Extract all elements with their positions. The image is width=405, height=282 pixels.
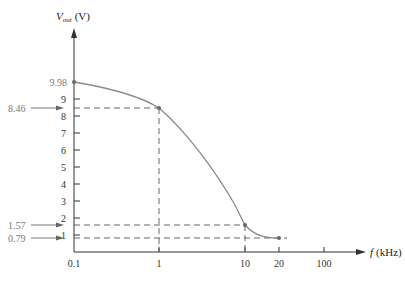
svg-text:5: 5 [61,162,66,173]
svg-text:0.1: 0.1 [68,258,81,269]
svg-text:8: 8 [61,111,66,122]
x-ticks: 0.1 1 10 20 100 [68,247,332,269]
svg-text:3: 3 [61,196,66,207]
svg-text:10: 10 [240,258,250,269]
x-axis-arrow-icon [356,249,366,255]
annotation-8-46: 8.46 [8,103,64,114]
svg-text:8.46: 8.46 [8,103,26,114]
svg-text:1: 1 [61,230,66,241]
svg-text:6: 6 [61,145,66,156]
y-axis-arrow-icon [71,28,77,38]
frequency-response-chart: Vout(V) f(kHz) 1 2 3 4 5 6 7 8 9 0.1 1 1… [0,0,405,282]
svg-text:1.57: 1.57 [8,220,26,231]
svg-text:9: 9 [61,94,66,105]
svg-text:4: 4 [61,179,66,190]
annotation-9-98: 9.98 [50,77,68,88]
y-axis-title: Vout(V) [56,10,90,24]
x-axis-title: f(kHz) [370,246,402,259]
annotation-0-79: 0.79 [8,233,64,244]
svg-text:7: 7 [61,128,66,139]
y-ticks: 1 2 3 4 5 6 7 8 9 [61,94,80,241]
svg-text:20: 20 [274,258,284,269]
data-points [72,80,281,240]
annotation-1-57: 1.57 [8,220,64,231]
svg-text:100: 100 [317,258,332,269]
svg-text:2: 2 [61,213,66,224]
response-curve [74,82,279,238]
svg-text:1: 1 [157,258,162,269]
svg-text:0.79: 0.79 [8,233,26,244]
